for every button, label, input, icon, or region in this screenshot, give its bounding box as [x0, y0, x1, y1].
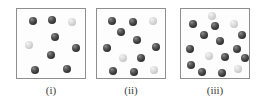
dark-sphere [130, 68, 138, 76]
dark-sphere [133, 36, 141, 44]
dark-sphere [189, 20, 197, 28]
dark-sphere [211, 22, 219, 30]
dark-sphere [152, 43, 160, 51]
dark-sphere [200, 31, 208, 39]
light-sphere [208, 12, 216, 20]
light-sphere [25, 41, 33, 49]
panel-label-2: (ii) [96, 83, 166, 97]
panel-border-box [96, 8, 166, 79]
panel-3 [180, 8, 250, 79]
dark-sphere [51, 33, 59, 41]
panel-label-3: (iii) [180, 83, 250, 97]
dark-sphere [103, 44, 111, 52]
panel-2 [96, 8, 166, 79]
dark-sphere [216, 37, 224, 45]
dark-sphere [48, 16, 56, 24]
dark-sphere [29, 17, 37, 25]
panel-border-box [16, 8, 86, 79]
light-sphere [150, 66, 158, 74]
panel-label-1: (i) [16, 83, 86, 97]
panel-border-box [180, 8, 250, 79]
dark-sphere [187, 61, 195, 69]
dark-sphere [221, 53, 229, 61]
dark-sphere [238, 31, 246, 39]
dark-sphere [108, 17, 116, 25]
dark-sphere [109, 67, 117, 75]
light-sphere [230, 20, 238, 28]
dark-sphere [241, 54, 249, 62]
light-sphere [68, 18, 76, 26]
light-sphere [234, 65, 242, 73]
dark-sphere [129, 18, 137, 26]
light-sphere [205, 52, 213, 60]
dark-sphere [47, 51, 55, 59]
dark-sphere [31, 66, 39, 74]
panel-1 [16, 8, 86, 79]
dark-sphere [233, 45, 241, 53]
dark-sphere [63, 65, 71, 73]
light-sphere [119, 54, 127, 62]
particle-density-figure: (i)(ii)(iii) [0, 0, 262, 108]
dark-sphere [218, 69, 226, 77]
dark-sphere [72, 44, 80, 52]
dark-sphere [198, 68, 206, 76]
dark-sphere [117, 28, 125, 36]
light-sphere [149, 17, 157, 25]
dark-sphere [186, 45, 194, 53]
dark-sphere [137, 54, 145, 62]
